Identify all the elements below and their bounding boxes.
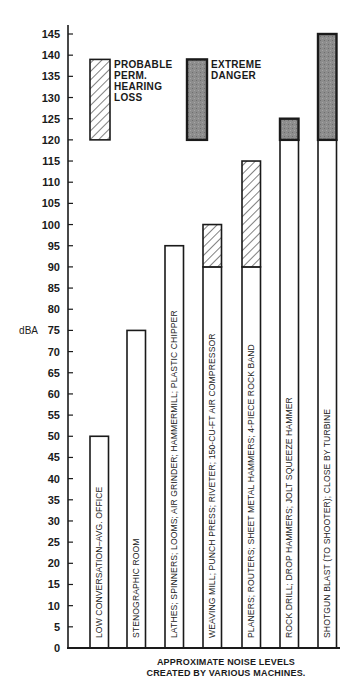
bar-label: STENOGRAPHIC ROOM: [131, 538, 141, 638]
y-axis: 0510152025303540455055606570758085909510…: [19, 25, 73, 654]
y-tick-label: 105: [42, 197, 60, 209]
y-tick-label: 45: [48, 451, 60, 463]
bar-label: SHOTGUN BLAST (TO SHOOTER); CLOSE BY TUR…: [322, 409, 332, 638]
y-tick-label: 15: [48, 578, 60, 590]
legend-item-hearing-loss: PROBABLEPERM.HEARINGLOSS: [90, 59, 173, 139]
y-tick-label: 110: [42, 176, 60, 188]
y-tick-label: 115: [42, 155, 60, 167]
bar-4: WEAVING MILL; PUNCH PRESS; RIVETER; 150-…: [203, 225, 222, 648]
y-tick-label: 55: [48, 409, 60, 421]
y-tick-label: 25: [48, 536, 60, 548]
y-tick-label: 50: [48, 430, 60, 442]
bar-2: STENOGRAPHIC ROOM: [127, 330, 146, 648]
legend-label: HEARING: [114, 81, 162, 92]
legend-item-extreme-danger: EXTREMEDANGER: [187, 59, 261, 139]
bar-5: PLANERS; ROUTERS; SHEET METAL HAMMERS; 4…: [242, 161, 261, 648]
y-tick-label: 95: [48, 240, 60, 252]
noise-level-chart: 0510152025303540455055606570758085909510…: [0, 0, 362, 688]
caption-line-1: APPROXIMATE NOISE LEVELS: [90, 657, 362, 668]
y-tick-label: 135: [42, 70, 60, 82]
y-tick-label: 140: [42, 49, 60, 61]
bar-segment-dark: [318, 34, 337, 140]
bar-label: WEAVING MILL; PUNCH PRESS; RIVETER; 150-…: [207, 333, 217, 638]
y-tick-label: 125: [42, 113, 60, 125]
y-tick-label: 120: [42, 134, 60, 146]
bar-label: PLANERS; ROUTERS; SHEET METAL HAMMERS; 4…: [246, 344, 256, 638]
y-axis-title: dBA: [19, 325, 38, 336]
y-tick-label: 70: [48, 346, 60, 358]
legend-label: PERM.: [114, 70, 147, 81]
bar-label: ROCK DRILL; DROP HAMMERS; JOLT SQUEEZE H…: [284, 397, 294, 638]
y-tick-label: 35: [48, 494, 60, 506]
y-tick-label: 100: [42, 219, 60, 231]
legend-label: EXTREME: [211, 59, 261, 70]
y-tick-label: 60: [48, 388, 60, 400]
bar-segment-hatched: [203, 225, 222, 267]
legend-label: PROBABLE: [114, 59, 173, 70]
y-tick-label: 0: [54, 642, 60, 654]
bars: LOW CONVERSATION–AVG. OFFICESTENOGRAPHIC…: [90, 34, 337, 648]
y-tick-label: 85: [48, 282, 60, 294]
bar-segment-hatched: [242, 161, 261, 267]
caption-line-2: CREATED BY VARIOUS MACHINES.: [90, 668, 362, 679]
y-tick-label: 75: [48, 324, 60, 336]
y-tick-label: 145: [42, 28, 60, 40]
legend-label: DANGER: [211, 70, 257, 81]
y-tick-label: 30: [48, 515, 60, 527]
y-tick-label: 20: [48, 557, 60, 569]
y-tick-label: 10: [48, 600, 60, 612]
bar-7: SHOTGUN BLAST (TO SHOOTER); CLOSE BY TUR…: [318, 34, 337, 648]
legend-swatch: [90, 59, 110, 139]
legend: PROBABLEPERM.HEARINGLOSSEXTREMEDANGER: [90, 59, 261, 139]
y-tick-label: 90: [48, 261, 60, 273]
y-tick-label: 130: [42, 92, 60, 104]
chart-caption: APPROXIMATE NOISE LEVELS CREATED BY VARI…: [90, 657, 362, 679]
y-tick-label: 80: [48, 303, 60, 315]
bar-segment-dark: [280, 119, 299, 140]
bar-3: LATHES; SPINNERS; LOOMS; AIR GRINDER; HA…: [165, 246, 184, 648]
bar-1: LOW CONVERSATION–AVG. OFFICE: [90, 436, 109, 648]
legend-label: LOSS: [114, 92, 142, 103]
y-tick-label: 5: [54, 621, 60, 633]
y-tick-label: 65: [48, 367, 60, 379]
bar-6: ROCK DRILL; DROP HAMMERS; JOLT SQUEEZE H…: [280, 119, 299, 648]
bar-label: LATHES; SPINNERS; LOOMS; AIR GRINDER; HA…: [169, 310, 179, 638]
bar-label: LOW CONVERSATION–AVG. OFFICE: [94, 486, 104, 638]
legend-swatch: [187, 59, 207, 139]
y-tick-label: 40: [48, 473, 60, 485]
